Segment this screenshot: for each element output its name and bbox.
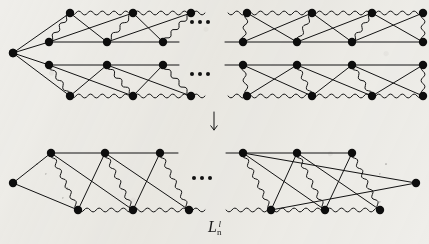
ellipsis-top-lower [190,72,210,76]
top-row-upper-right-top-node [368,9,376,17]
faint-edge-label: v [379,200,381,204]
ellipsis-dot [192,176,196,180]
top-row-upper-right-wavy-rung [421,13,425,42]
bottom-row-right-top-node [239,149,247,157]
top-row-lower-left-bottom-node [66,92,74,100]
top-row-lower-left-diagonal [70,65,107,96]
bottom-row-left-top-node [47,149,55,157]
top-row-lower-right-top-node [419,61,427,69]
top-row-upper-left-apex-edge-top [13,13,70,53]
bottom-row-right-bottom-node [376,206,384,214]
top-row-upper-left-apex-edge-bottom [13,42,49,53]
top-row-lower-right-wavy-rung [241,65,247,96]
top-row-upper-right-bottom-node [419,38,427,46]
top-row-lower-left-top-node [45,61,53,69]
faint-edge-label: u [36,162,38,166]
top-row-upper-left-top-node [129,9,137,17]
top-row-lower-right-top-node [239,61,247,69]
top-row-lower-left-top-node [159,61,167,69]
ellipsis-dot [198,72,202,76]
top-row-lower-left-bottom-node [129,92,137,100]
bottom-row-left-apex-node [9,179,17,187]
bottom-row-left-wavy-rung [159,153,189,210]
top-row-upper-left-bottom-node [103,38,111,46]
top-row-upper-right-cross-diagonal [312,13,352,42]
ellipsis-dot [198,20,202,24]
top-row-lower-right-top-node [293,61,301,69]
bottom-row-left-bottom-node [185,206,193,214]
ladder-diagram-figure: Lnl uvuvuvuv [0,0,429,244]
bottom-row-right-bottom-node [267,206,275,214]
diagram-caption-label: Lnl [208,219,221,237]
top-row-upper-left-top-rail [70,11,205,15]
bottom-row-left-wavy-rung [104,153,133,210]
top-row-lower-left-top-node [103,61,111,69]
faint-edge-label: u [385,162,387,166]
bottom-row-left-bottom-node [74,206,82,214]
ellipsis-top-upper [190,20,210,24]
top-row-upper-left-wavy-rung [49,13,70,42]
bottom-row-right-top-node [293,149,301,157]
bottom-row-left-bottom-node [129,206,137,214]
ellipsis-dot [190,72,194,76]
top-row-upper-right-top-node [243,9,251,17]
top-row-upper-right-top-node [419,9,427,17]
top-row-upper-right-diagonal [243,13,312,42]
top-row-lower-left-wavy-rung [163,65,191,96]
top-row-lower-right-diagonal [372,65,423,96]
top-row-lower-right-bottom-node [419,92,427,100]
top-row-lower-right-cross-diagonal [243,65,312,96]
faint-edge-label: u [371,190,373,194]
top-row-upper-right-top-node [308,9,316,17]
top-row-upper-right-bottom-node [293,38,301,46]
top-row-lower-right-bottom-rail [228,94,423,98]
top-row-lower-left-apex-node [9,49,17,57]
bottom-row-right-bottom-node [321,206,329,214]
faint-edge-label: v [379,172,381,176]
bottom-row-right-apex-node [412,179,420,187]
top-row-lower-right-top-node [348,61,356,69]
top-row-upper-right-wavy-rung [296,13,312,42]
top-row-lower-right-diagonal [312,65,352,96]
faint-edge-label: v [62,196,64,200]
top-row-upper-left-wavy-rung [163,13,191,42]
caption-superscript: l [218,219,221,229]
faint-edge-label: u [66,186,68,190]
bottom-row-right-wavy-rung [351,153,380,210]
top-row-lower-left-apex-edge-top [13,53,49,65]
caption-letter: L [208,218,217,235]
top-row-lower-right-wavy-rung [296,65,312,96]
bottom-row-left-top-node [101,149,109,157]
diagram-canvas [0,0,429,244]
bottom-row-right-apex-edge-top [243,153,416,183]
top-row-lower-left-bottom-rail [70,94,205,98]
top-row-lower-left-bottom-node [187,92,195,100]
bottom-row-right-wavy-rung [296,153,325,210]
top-row-lower-right-bottom-node [368,92,376,100]
ellipsis-dot [206,72,210,76]
bottom-row-left-apex-edge-top [13,153,51,183]
ellipsis-dot [206,20,210,24]
bottom-row-right-top-node [348,149,356,157]
top-row-upper-left-bottom-node [45,38,53,46]
bottom-row-right-bottom-rail [226,208,380,212]
top-row-lower-left-wavy-rung [49,65,71,96]
top-row-upper-right-top-rail [228,11,423,15]
top-row-upper-left-top-node [187,9,195,17]
bottom-row-left-top-node [156,149,164,157]
bottom-row-right-wavy-rung [242,153,271,210]
top-row-upper-left-cross-diagonal [133,13,163,42]
top-row-upper-right-bottom-node [239,38,247,46]
bottom-row-left-apex-edge-bottom [13,183,78,210]
ellipsis-dot [190,20,194,24]
top-row-lower-right-bottom-node [243,92,251,100]
faint-edge-label: v [45,172,47,176]
ellipsis-bottom [192,176,212,180]
top-row-upper-left-top-node [66,9,74,17]
top-row-lower-right-bottom-node [308,92,316,100]
top-row-upper-right-wavy-rung [241,13,247,42]
top-row-upper-left-bottom-node [159,38,167,46]
top-row-upper-left-cross-diagonal [70,13,107,42]
top-row-lower-left-apex-edge-bottom [13,53,70,96]
top-row-lower-right-wavy-rung [421,65,425,96]
